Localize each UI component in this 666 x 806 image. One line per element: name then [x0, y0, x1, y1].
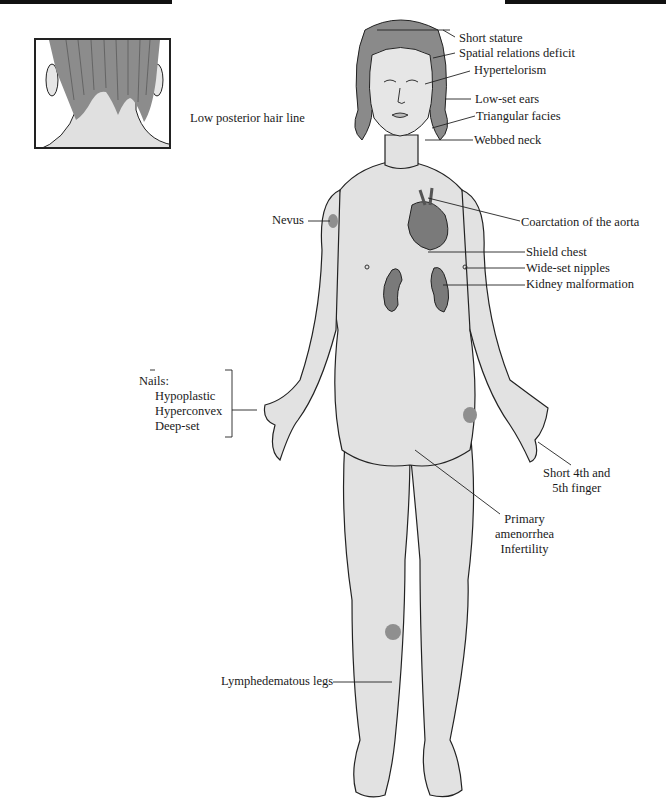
nails-item-hypoplastic: Hypoplastic	[139, 389, 222, 404]
nails-item-deep-set: Deep-set	[139, 419, 222, 434]
short-fingers-line2: 5th finger	[543, 481, 610, 496]
label-lymphedematous-legs: Lymphedematous legs	[221, 674, 333, 689]
short-fingers-line1: Short 4th and	[543, 466, 610, 481]
label-wide-set-nipples: Wide-set nipples	[526, 261, 610, 276]
label-nails: Nails: Hypoplastic Hyperconvex Deep-set	[139, 374, 222, 434]
amenorrhea-line3: Infertility	[495, 542, 554, 557]
label-spatial-relations-deficit: Spatial relations deficit	[459, 46, 575, 61]
label-short-fingers: Short 4th and 5th finger	[543, 466, 610, 496]
label-amenorrhea: Primary amenorrhea Infertility	[495, 512, 554, 557]
label-low-set-ears: Low-set ears	[475, 92, 539, 107]
label-kidney-malformation: Kidney malformation	[526, 277, 634, 292]
amenorrhea-line2: amenorrhea	[495, 527, 554, 542]
label-hypertelorism: Hypertelorism	[474, 63, 546, 78]
label-nevus: Nevus	[272, 213, 304, 228]
nails-item-hyperconvex: Hyperconvex	[139, 404, 222, 419]
label-shield-chest: Shield chest	[526, 245, 587, 260]
nails-title: Nails:	[139, 374, 222, 389]
label-webbed-neck: Webbed neck	[474, 133, 541, 148]
label-coarctation-of-aorta: Coarctation of the aorta	[521, 215, 639, 230]
amenorrhea-line1: Primary	[495, 512, 554, 527]
label-short-stature: Short stature	[459, 31, 523, 46]
label-triangular-facies: Triangular facies	[476, 109, 561, 124]
